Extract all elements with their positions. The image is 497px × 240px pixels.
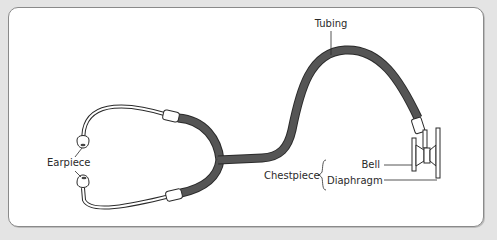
- label-diaphragm: Diaphragm: [327, 175, 383, 186]
- chestpiece: [412, 128, 440, 178]
- leader-lines: [75, 31, 437, 190]
- stethoscope-diagram: Tubing Earpiece Chestpiece Bell Diaphrag…: [0, 0, 497, 240]
- label-bell: Bell: [361, 159, 380, 170]
- label-chestpiece: Chestpiece: [264, 170, 320, 181]
- ear-tubes: [83, 106, 170, 207]
- label-tubing: Tubing: [314, 18, 348, 29]
- label-earpiece: Earpiece: [47, 157, 91, 168]
